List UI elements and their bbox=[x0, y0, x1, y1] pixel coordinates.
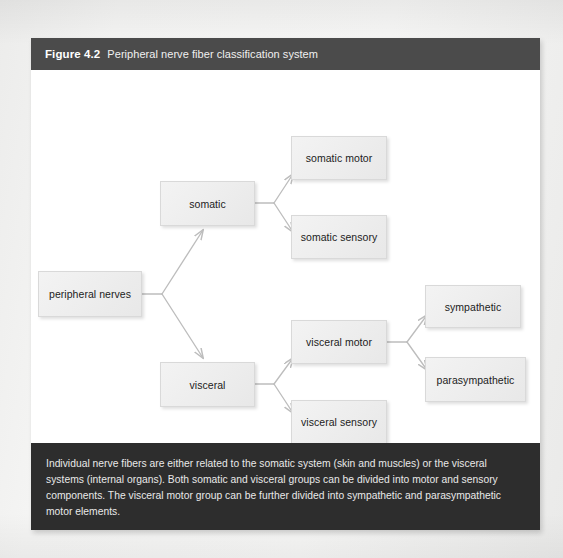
node-label: visceral sensory bbox=[301, 416, 377, 428]
node-somatic[interactable]: somatic bbox=[160, 181, 255, 226]
node-visceral-sensory[interactable]: visceral sensory bbox=[291, 400, 387, 444]
figure-title: Peripheral nerve fiber classification sy… bbox=[107, 48, 318, 60]
node-visceral-motor[interactable]: visceral motor bbox=[291, 320, 387, 364]
figure-header-bar: Figure 4.2 Peripheral nerve fiber classi… bbox=[31, 38, 540, 70]
node-label: visceral motor bbox=[306, 336, 372, 348]
figure-caption-panel: Individual nerve fibers are either relat… bbox=[31, 443, 540, 530]
edge-peripheral-to-somatic bbox=[162, 230, 203, 294]
edge-visceral-motor-to-parasympathetic bbox=[407, 342, 427, 370]
edge-visceral-motor-to-sympathetic bbox=[407, 315, 427, 342]
node-label: somatic motor bbox=[306, 152, 373, 164]
node-parasympathetic[interactable]: parasympathetic bbox=[425, 357, 526, 402]
node-label: somatic sensory bbox=[301, 231, 378, 243]
node-sympathetic[interactable]: sympathetic bbox=[425, 285, 521, 328]
node-label: peripheral nerves bbox=[49, 288, 131, 300]
node-somatic-sensory[interactable]: somatic sensory bbox=[291, 215, 387, 259]
figure-panel: Figure 4.2 Peripheral nerve fiber classi… bbox=[31, 38, 540, 530]
figure-number: Figure 4.2 bbox=[45, 48, 100, 60]
node-peripheral-nerves[interactable]: peripheral nerves bbox=[38, 271, 142, 317]
diagram-canvas: peripheral nerves somatic visceral somat… bbox=[31, 70, 540, 443]
node-label: visceral bbox=[190, 379, 226, 391]
node-somatic-motor[interactable]: somatic motor bbox=[291, 136, 387, 180]
node-visceral[interactable]: visceral bbox=[160, 362, 255, 407]
node-label: sympathetic bbox=[445, 301, 502, 313]
figure-caption-text: Individual nerve fibers are either relat… bbox=[46, 456, 518, 520]
node-label: parasympathetic bbox=[437, 374, 515, 386]
edge-peripheral-to-visceral bbox=[162, 294, 203, 358]
node-label: somatic bbox=[189, 198, 226, 210]
